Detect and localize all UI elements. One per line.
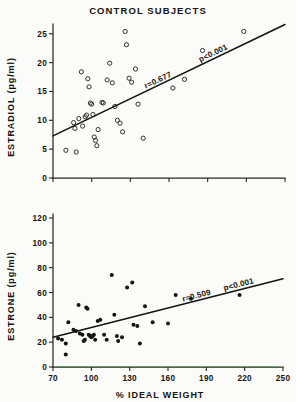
data-point [110,273,114,277]
data-point [98,318,102,322]
data-point [64,353,68,357]
data-point [138,341,142,345]
y-tick-label: 5 [42,145,47,154]
data-point [56,336,60,340]
x-tick-label: 190 [199,374,214,383]
x-tick-label: 160 [161,374,176,383]
data-point [64,341,68,345]
data-point [151,320,155,324]
data-point [174,293,178,297]
x-tick-label: 130 [122,374,137,383]
y-tick-label: 0 [42,174,47,183]
bottom-y-axis-label: ESTRONE (pg/ml) [6,251,16,341]
data-point [116,339,120,343]
data-point [102,333,106,337]
y-tick-label: 60 [37,289,47,298]
top-y-axis-label: ESTRADIOL (pg/ml) [6,57,16,157]
data-point [80,333,84,337]
x-axis-label: % IDEAL WEIGHT [116,390,204,400]
x-tick-label: 220 [237,374,252,383]
data-point [120,335,124,339]
data-point [143,304,147,308]
data-point [135,324,139,328]
data-point [77,303,81,307]
x-tick-label: 70 [48,374,58,383]
y-tick-label: 15 [37,87,47,96]
x-tick-label: 250 [276,374,291,383]
data-point [132,323,136,327]
data-point [83,338,87,342]
y-tick-label: 0 [42,363,47,372]
data-point [115,334,119,338]
y-tick-label: 10 [37,116,47,125]
data-point [60,338,64,342]
data-point [130,281,134,285]
scatter-figure: CONTROL SUBJECTS ESTRADIOL (pg/ml) 05101… [0,0,296,402]
data-point [86,307,90,311]
data-point [112,313,116,317]
x-tick-label: 100 [84,374,99,383]
data-point [66,320,70,324]
data-point [125,286,129,290]
data-point [92,333,96,337]
y-tick-label: 20 [37,59,47,68]
y-tick-label: 80 [37,264,47,273]
y-tick-label: 25 [37,30,47,39]
data-point [238,293,242,297]
y-tick-label: 120 [32,214,47,223]
y-tick-label: 20 [37,338,47,347]
data-point [93,338,97,342]
figure-container: CONTROL SUBJECTS ESTRADIOL (pg/ml) 05101… [0,0,296,402]
y-tick-label: 40 [37,313,47,322]
data-point [166,322,170,326]
chart-title: CONTROL SUBJECTS [89,5,207,16]
data-point [105,338,109,342]
y-tick-label: 100 [32,239,47,248]
